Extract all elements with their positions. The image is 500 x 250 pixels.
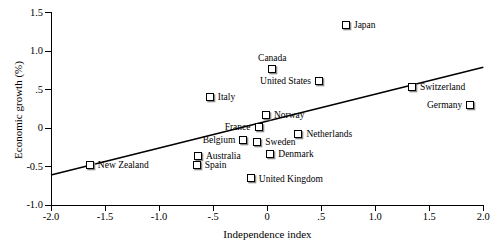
data-point-label: Denmark <box>278 149 313 159</box>
data-point: Belgium <box>203 136 248 145</box>
open-square-marker-icon <box>342 21 350 29</box>
open-square-marker-icon <box>268 65 276 73</box>
scatter-chart: Economic growth (%) Independence index -… <box>0 0 500 250</box>
data-point-label: Netherlands <box>306 129 352 139</box>
caption-sliver <box>8 242 208 248</box>
data-point-label: Spain <box>205 160 227 170</box>
data-point-label: Norway <box>274 110 305 120</box>
data-point-label: Italy <box>218 92 235 102</box>
data-point: Switzerland <box>408 83 465 92</box>
data-point-label: United Kingdom <box>259 174 323 184</box>
data-point: Norway <box>262 111 305 120</box>
open-square-marker-icon <box>206 93 214 101</box>
data-point: United Kingdom <box>247 175 323 184</box>
open-square-marker-icon <box>247 174 255 182</box>
data-point-label: Japan <box>354 20 376 30</box>
open-square-marker-icon <box>193 161 201 169</box>
data-point: Germany <box>427 101 474 110</box>
data-point-label: Germany <box>427 100 462 110</box>
open-square-marker-icon <box>253 138 261 146</box>
data-point: Japan <box>342 21 376 30</box>
open-square-marker-icon <box>194 152 202 160</box>
data-point-label: France <box>225 122 251 132</box>
data-point: United States <box>260 77 323 86</box>
open-square-marker-icon <box>86 161 94 169</box>
data-point-label: United States <box>260 76 311 86</box>
open-square-marker-icon <box>266 150 274 158</box>
data-point: Italy <box>206 93 235 102</box>
open-square-marker-icon <box>408 83 416 91</box>
data-point-label: Switzerland <box>420 82 465 92</box>
data-point: New Zealand <box>86 161 149 170</box>
data-point: Spain <box>193 161 227 170</box>
data-point: Canada <box>239 54 305 74</box>
open-square-marker-icon <box>262 111 270 119</box>
data-point-label: Belgium <box>203 135 236 145</box>
data-point: Sweden <box>253 138 295 147</box>
data-point-label: New Zealand <box>98 160 149 170</box>
open-square-marker-icon <box>315 77 323 85</box>
open-square-marker-icon <box>294 130 302 138</box>
data-point-label: Sweden <box>265 137 295 147</box>
open-square-marker-icon <box>255 123 263 131</box>
open-square-marker-icon <box>466 101 474 109</box>
open-square-marker-icon <box>239 136 247 144</box>
data-point-label: Canada <box>239 54 305 63</box>
data-point: France <box>225 123 263 132</box>
data-point: Denmark <box>266 150 313 159</box>
data-point: Netherlands <box>294 130 352 139</box>
